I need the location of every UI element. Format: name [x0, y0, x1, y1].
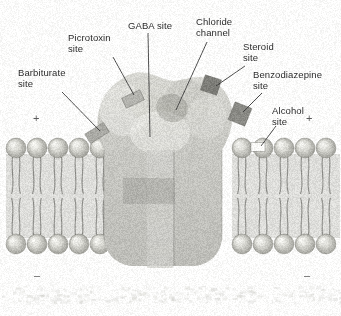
- label-alcohol: Alcohol site: [272, 106, 304, 127]
- label-steroid: Steroid site: [243, 42, 274, 63]
- label-gaba: GABA site: [128, 21, 172, 32]
- charge-sign-plus-left: +: [33, 113, 39, 124]
- label-benzodiazepine: Benzodiazepine site: [253, 70, 322, 91]
- label-chloride: Chloride channel: [196, 17, 232, 38]
- label-picrotoxin: Picrotoxin site: [68, 33, 111, 54]
- charge-sign-minus-left: –: [34, 270, 40, 281]
- label-barbiturate: Barbiturate site: [18, 68, 66, 89]
- charge-sign-minus-right: –: [304, 270, 310, 281]
- receptor-membrane-illustration: [0, 0, 341, 316]
- gaba-receptor-figure: Barbiturate sitePicrotoxin siteGABA site…: [0, 0, 341, 316]
- charge-sign-plus-right: +: [306, 113, 312, 124]
